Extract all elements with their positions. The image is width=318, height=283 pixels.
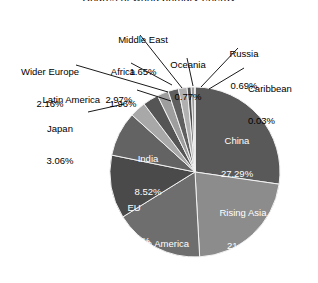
- slice-label-oceania-name: Oceania: [160, 60, 216, 71]
- slice-label-india-pct: 8.52%: [120, 186, 176, 197]
- slice-label-india: India 8.52%: [120, 131, 176, 219]
- pie-chart-figure: Shares of world primary energy China 27.…: [0, 0, 318, 283]
- slice-label-rising-asia-pct: 21.84%: [204, 240, 282, 251]
- slice-label-north-america-pct: 17.02%: [116, 271, 202, 282]
- slice-label-oceania: Oceania 0.77%: [160, 39, 216, 123]
- slice-label-caribbean-pct: 0.03%: [248, 116, 314, 127]
- slice-label-india-name: India: [120, 153, 176, 164]
- slice-label-wider-europe: Wider Europe 2.16%: [10, 46, 90, 130]
- slice-label-rising-asia-name: Rising Asia: [204, 207, 282, 218]
- slice-label-wider-europe-name: Wider Europe: [10, 67, 90, 78]
- slice-label-eu-pct: 12.05%: [106, 235, 162, 246]
- slice-label-caribbean: Caribbean 0.03%: [248, 63, 314, 147]
- slice-label-russia-name: Russia: [218, 49, 270, 60]
- slice-label-rising-asia: Rising Asia 21.84%: [204, 185, 282, 273]
- slice-label-caribbean-name: Caribbean: [248, 84, 314, 95]
- slice-label-africa-pct: 1.96%: [98, 99, 148, 110]
- slice-label-china-pct: 27.29%: [200, 168, 274, 179]
- slice-label-japan-pct: 3.06%: [32, 156, 88, 167]
- slice-label-wider-europe-pct: 2.16%: [10, 99, 90, 110]
- slice-label-oceania-pct: 0.77%: [160, 92, 216, 103]
